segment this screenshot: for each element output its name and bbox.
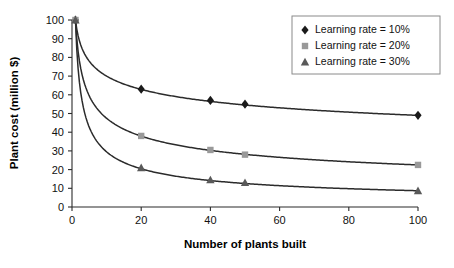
y-axis: 0102030405060708090100: [46, 14, 72, 213]
legend-item-label: Learning rate = 20%: [315, 39, 410, 51]
x-axis: 020406080100: [69, 207, 427, 226]
legend-item-label: Learning rate = 10%: [315, 23, 410, 35]
y-tick-label: 30: [52, 145, 64, 157]
x-tick-label: 20: [135, 214, 147, 226]
y-tick-label: 20: [52, 164, 64, 176]
y-tick-label: 100: [46, 14, 64, 26]
x-axis-title: Number of plants built: [184, 238, 306, 250]
y-tick-label: 0: [58, 201, 64, 213]
y-tick-label: 70: [52, 70, 64, 82]
x-tick-label: 0: [69, 214, 75, 226]
y-tick-label: 40: [52, 126, 64, 138]
data-point-triangle: [206, 176, 214, 184]
x-tick-label: 40: [204, 214, 216, 226]
data-point-diamond: [207, 96, 214, 105]
data-point-square: [138, 133, 144, 139]
data-point-square: [302, 43, 308, 49]
chart-canvas: 0102030405060708090100 020406080100 Plan…: [0, 0, 454, 268]
y-tick-label: 90: [52, 33, 64, 45]
data-point-square: [207, 147, 213, 153]
data-point-diamond: [138, 85, 145, 94]
y-tick-label: 50: [52, 108, 64, 120]
y-axis-title: Plant cost (million $): [8, 57, 20, 170]
data-point-diamond: [241, 100, 248, 109]
data-point-triangle: [241, 178, 249, 186]
chart-legend: Learning rate = 10%Learning rate = 20%Le…: [292, 16, 440, 74]
x-tick-label: 100: [409, 214, 427, 226]
y-tick-label: 60: [52, 89, 64, 101]
data-point-square: [415, 162, 421, 168]
data-point-square: [242, 151, 248, 157]
y-tick-label: 80: [52, 51, 64, 63]
data-point-diamond: [414, 111, 421, 120]
y-tick-label: 10: [52, 182, 64, 194]
x-tick-label: 80: [343, 214, 355, 226]
x-tick-label: 60: [273, 214, 285, 226]
legend-item-label: Learning rate = 30%: [315, 55, 410, 67]
learning-curve-chart: 0102030405060708090100 020406080100 Plan…: [0, 0, 454, 268]
